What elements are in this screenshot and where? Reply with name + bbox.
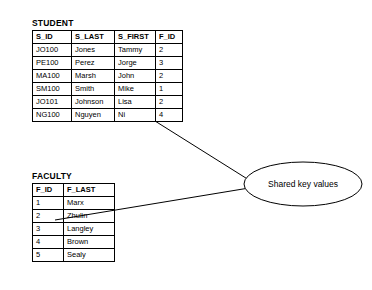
- table-row: 2 Zhulin: [33, 210, 115, 223]
- column-header: S_LAST: [72, 31, 115, 44]
- table-cell: 1: [33, 197, 64, 210]
- diagram-canvas: STUDENT S_ID S_LAST S_FIRST F_ID JO100 J…: [0, 0, 372, 290]
- column-header: F_LAST: [64, 184, 115, 197]
- table-cell: 4: [33, 236, 64, 249]
- faculty-table: F_ID F_LAST 1 Marx 2 Zhulin 3 Langley: [32, 183, 115, 262]
- student-table: S_ID S_LAST S_FIRST F_ID JO100 Jones Tam…: [32, 30, 183, 122]
- table-cell: Marsh: [72, 70, 115, 83]
- column-header: S_FIRST: [115, 31, 156, 44]
- table-cell: 1: [156, 83, 183, 96]
- table-row: 4 Brown: [33, 236, 115, 249]
- table-cell: John: [115, 70, 156, 83]
- table-row: 5 Sealy: [33, 249, 115, 262]
- table-cell: 2: [33, 210, 64, 223]
- table-cell: Jones: [72, 44, 115, 57]
- table-row: MA100 Marsh John 2: [33, 70, 183, 83]
- table-cell: Marx: [64, 197, 115, 210]
- table-cell: 3: [33, 223, 64, 236]
- table-cell: NG100: [33, 109, 72, 122]
- table-row: 1 Marx: [33, 197, 115, 210]
- table-cell: Lisa: [115, 96, 156, 109]
- table-cell: Smith: [72, 83, 115, 96]
- column-header: S_ID: [33, 31, 72, 44]
- leader-line-student: [155, 121, 249, 180]
- table-cell: JO100: [33, 44, 72, 57]
- table-row: JO101 Johnson Lisa 2: [33, 96, 183, 109]
- table-cell: Sealy: [64, 249, 115, 262]
- table-cell: Ni: [115, 109, 156, 122]
- table-cell: Brown: [64, 236, 115, 249]
- table-header-row: S_ID S_LAST S_FIRST F_ID: [33, 31, 183, 44]
- table-cell: 2: [156, 96, 183, 109]
- table-row: SM100 Smith Mike 1: [33, 83, 183, 96]
- table-cell: Langley: [64, 223, 115, 236]
- table-cell: 2: [156, 44, 183, 57]
- table-cell: 3: [156, 57, 183, 70]
- column-header: F_ID: [33, 184, 64, 197]
- table-cell: MA100: [33, 70, 72, 83]
- table-row: NG100 Nguyen Ni 4: [33, 109, 183, 122]
- table-cell: Johnson: [72, 96, 115, 109]
- table-cell: Jorge: [115, 57, 156, 70]
- table-cell: 2: [156, 70, 183, 83]
- faculty-table-title: FACULTY: [32, 171, 115, 181]
- student-table-title: STUDENT: [32, 18, 183, 28]
- callout-label: Shared key values: [244, 179, 362, 189]
- table-header-row: F_ID F_LAST: [33, 184, 115, 197]
- table-cell: 4: [156, 109, 183, 122]
- column-header: F_ID: [156, 31, 183, 44]
- table-cell: Nguyen: [72, 109, 115, 122]
- table-cell: Tammy: [115, 44, 156, 57]
- student-table-block: STUDENT S_ID S_LAST S_FIRST F_ID JO100 J…: [32, 18, 183, 122]
- table-cell: JO101: [33, 96, 72, 109]
- table-cell: Mike: [115, 83, 156, 96]
- table-cell: Zhulin: [64, 210, 115, 223]
- table-row: PE100 Perez Jorge 3: [33, 57, 183, 70]
- table-row: JO100 Jones Tammy 2: [33, 44, 183, 57]
- table-cell: PE100: [33, 57, 72, 70]
- table-cell: SM100: [33, 83, 72, 96]
- table-cell: Perez: [72, 57, 115, 70]
- table-row: 3 Langley: [33, 223, 115, 236]
- faculty-table-block: FACULTY F_ID F_LAST 1 Marx 2 Zhulin 3: [32, 171, 115, 262]
- table-cell: 5: [33, 249, 64, 262]
